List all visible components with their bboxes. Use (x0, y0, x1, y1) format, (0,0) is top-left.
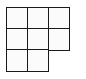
grid-cell (27, 28, 49, 51)
grid-cell (27, 7, 49, 30)
grid-cell (6, 28, 28, 51)
grid-cell (48, 7, 70, 30)
grid-cell (6, 7, 28, 30)
grid-cell (48, 28, 70, 51)
grid-cell (27, 49, 49, 72)
grid-canvas (0, 0, 86, 79)
grid-cell (6, 49, 28, 72)
